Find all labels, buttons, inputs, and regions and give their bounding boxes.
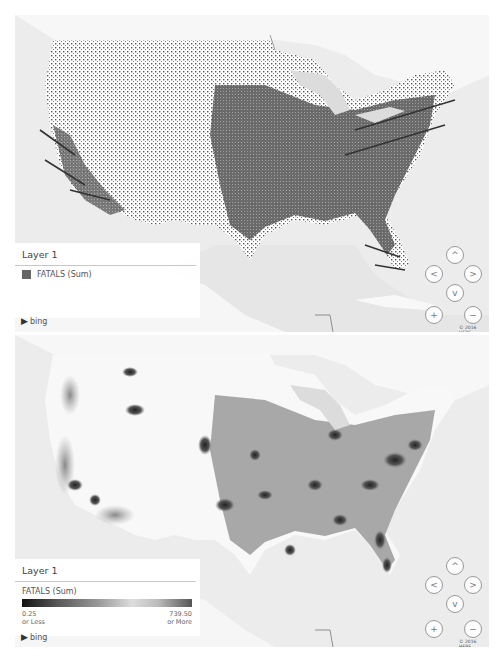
legend-color-ramp: [22, 599, 192, 607]
bing-logo: ▶ bing: [21, 316, 47, 326]
legend-field-label: FATALS (Sum): [37, 270, 92, 279]
chevron-up-icon: ^: [451, 561, 459, 571]
zoom-in-button[interactable]: +: [425, 306, 443, 324]
legend-field-label: FATALS (Sum): [15, 582, 200, 599]
legend-panel: Layer 1 FATALS (Sum) 0.25 or Less 739.50…: [15, 559, 200, 636]
bing-icon: ▶: [21, 316, 28, 326]
chevron-left-icon: <: [430, 580, 438, 590]
chevron-down-icon: v: [452, 288, 457, 298]
legend-max-caption: or More: [167, 618, 192, 626]
copyright-text: © 2016 HERE: [459, 325, 489, 332]
pan-left-button[interactable]: <: [425, 576, 443, 594]
pan-right-button[interactable]: >: [464, 265, 482, 283]
chevron-right-icon: >: [469, 580, 477, 590]
legend-swatch: [22, 270, 31, 279]
legend-min-caption: or Less: [22, 618, 45, 626]
bing-icon: ▶: [21, 632, 28, 642]
minus-icon: −: [469, 624, 477, 634]
pan-right-button[interactable]: >: [464, 576, 482, 594]
copyright-text: © 2016 HERE: [459, 639, 489, 647]
legend-max: 739.50 or More: [167, 610, 192, 626]
legend-min: 0.25 or Less: [22, 610, 45, 626]
zoom-in-button[interactable]: +: [425, 620, 443, 638]
pan-down-button[interactable]: v: [446, 284, 464, 302]
legend-min-value: 0.25: [22, 610, 45, 618]
legend-entry: FATALS (Sum): [15, 266, 200, 283]
chevron-right-icon: >: [469, 269, 477, 279]
points-map[interactable]: Layer 1 FATALS (Sum) ▶ bing ^ < > v + − …: [15, 15, 489, 332]
zoom-out-button[interactable]: −: [464, 306, 482, 324]
zoom-out-button[interactable]: −: [464, 620, 482, 638]
minus-icon: −: [469, 310, 477, 320]
legend-layer-title: Layer 1: [15, 559, 196, 582]
chevron-left-icon: <: [430, 269, 438, 279]
pan-down-button[interactable]: v: [446, 595, 464, 613]
legend-max-value: 739.50: [167, 610, 192, 618]
plus-icon: +: [430, 310, 438, 320]
legend-range: 0.25 or Less 739.50 or More: [15, 607, 200, 628]
pan-up-button[interactable]: ^: [446, 246, 464, 264]
legend-layer-title: Layer 1: [15, 243, 196, 266]
heatmap-map[interactable]: Layer 1 FATALS (Sum) 0.25 or Less 739.50…: [15, 335, 489, 647]
pan-left-button[interactable]: <: [425, 265, 443, 283]
pan-up-button[interactable]: ^: [446, 557, 464, 575]
bing-label: bing: [30, 317, 47, 326]
bing-label: bing: [30, 633, 47, 642]
plus-icon: +: [430, 624, 438, 634]
bing-logo: ▶ bing: [21, 632, 47, 642]
legend-panel: Layer 1 FATALS (Sum): [15, 243, 200, 318]
chevron-up-icon: ^: [451, 250, 459, 260]
chevron-down-icon: v: [452, 599, 457, 609]
